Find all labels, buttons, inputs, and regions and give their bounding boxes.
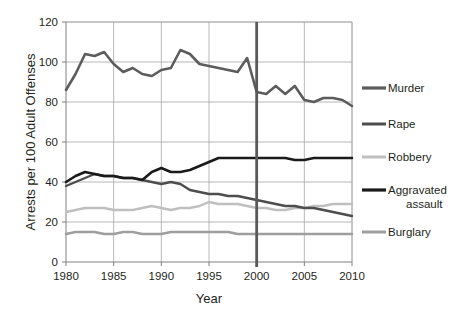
y-tick-label: 20 [45, 216, 58, 228]
y-tick-label: 100 [39, 56, 58, 68]
legend-label-aggravated-assault[interactable]: Aggravated [388, 184, 447, 196]
y-tick-label: 60 [45, 136, 58, 148]
y-tick-label: 80 [45, 96, 58, 108]
legend-label-aggravated-assault-line2[interactable]: assault [406, 198, 443, 210]
x-tick-label: 1995 [196, 270, 222, 282]
y-tick-label: 120 [39, 16, 58, 28]
x-tick-label: 1980 [53, 270, 79, 282]
x-tick-label: 1985 [101, 270, 127, 282]
y-tick-label: 40 [45, 176, 58, 188]
x-tick-label: 2005 [292, 270, 318, 282]
x-axis-title: Year [196, 291, 223, 306]
y-axis-title: Arrests per 100 Adult Offenses [23, 53, 38, 230]
legend-label-robbery[interactable]: Robbery [388, 151, 432, 163]
legend-label-burglary[interactable]: Burglary [388, 226, 431, 238]
legend-label-rape[interactable]: Rape [388, 118, 416, 130]
y-tick-label: 0 [52, 256, 58, 268]
legend-label-murder[interactable]: Murder [388, 82, 425, 94]
line-chart: 020406080100120 198019851990199520002005… [0, 0, 461, 311]
x-tick-label: 2000 [244, 270, 270, 282]
chart-container: 020406080100120 198019851990199520002005… [0, 0, 461, 311]
x-tick-label: 2010 [339, 270, 365, 282]
x-tick-label: 1990 [149, 270, 175, 282]
